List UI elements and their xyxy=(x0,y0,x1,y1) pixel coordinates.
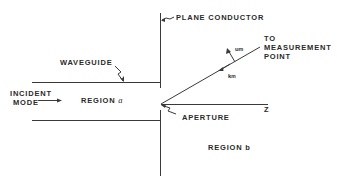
km-vector-label: km xyxy=(228,71,236,81)
aperture-waveguide-diagram: PLANE CONDUCTOR WAVEGUIDE INCIDENT MODE … xyxy=(0,0,337,184)
region-b-variable: b xyxy=(245,143,250,152)
um-vector-label: um xyxy=(235,44,243,54)
measurement-direction-line xyxy=(161,47,260,104)
incident-mode-label-line2: MODE xyxy=(13,98,39,107)
km-arrowhead xyxy=(218,67,224,71)
to-measurement-point-line3: POINT xyxy=(264,52,291,61)
to-measurement-point-line1: TO xyxy=(264,34,276,43)
waveguide-label: WAVEGUIDE xyxy=(60,58,112,67)
region-a-label: REGION a xyxy=(81,96,123,105)
plane-conductor-arrowhead xyxy=(161,18,165,22)
um-subscript: m xyxy=(239,46,243,52)
incident-mode-label-line1: INCIDENT xyxy=(10,89,52,98)
region-b-prefix: REGION xyxy=(208,143,242,152)
aperture-leader xyxy=(164,106,176,114)
region-b-label: REGION b xyxy=(208,143,251,152)
to-measurement-point-line2: MEASUREMENT xyxy=(264,43,332,52)
km-subscript: m xyxy=(231,73,235,79)
z-axis-label: Z xyxy=(264,105,269,114)
region-a-prefix: REGION xyxy=(81,96,115,105)
aperture-label: APERTURE xyxy=(182,113,230,122)
incident-mode-arrowhead xyxy=(57,99,62,103)
plane-conductor-label: PLANE CONDUCTOR xyxy=(176,13,264,22)
region-a-variable: a xyxy=(118,95,123,105)
